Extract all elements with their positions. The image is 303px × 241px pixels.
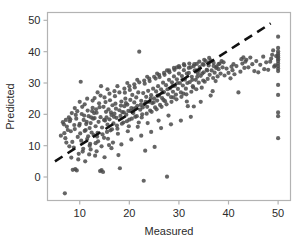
data-point — [68, 117, 72, 121]
data-point — [73, 127, 77, 131]
data-point — [76, 157, 80, 161]
data-point — [266, 68, 270, 72]
data-point — [239, 57, 243, 61]
data-point — [195, 75, 199, 79]
data-point — [100, 132, 104, 136]
x-tick-label: 50 — [272, 207, 284, 219]
data-point — [276, 35, 280, 39]
data-point — [144, 95, 148, 99]
data-point — [161, 98, 165, 102]
data-point — [169, 122, 173, 126]
x-tick-label: 10 — [74, 207, 86, 219]
data-point — [70, 140, 74, 144]
data-point — [165, 68, 169, 72]
data-point — [206, 77, 210, 81]
data-point — [117, 90, 121, 94]
data-point — [224, 66, 228, 70]
data-point — [156, 84, 160, 88]
data-point — [156, 119, 160, 123]
data-point — [111, 140, 115, 144]
y-tick-label: 0 — [34, 171, 40, 183]
data-point — [95, 90, 99, 94]
data-point — [72, 123, 76, 127]
data-point — [149, 130, 153, 134]
data-point — [106, 137, 110, 141]
data-point — [216, 62, 220, 66]
data-point — [276, 83, 280, 87]
data-point — [73, 106, 77, 110]
data-point — [81, 147, 85, 151]
data-point — [189, 115, 193, 119]
data-point — [175, 65, 179, 69]
data-point — [108, 98, 112, 102]
data-point — [114, 107, 118, 111]
data-point — [276, 110, 280, 114]
data-point — [66, 128, 70, 132]
data-point — [208, 73, 212, 77]
data-point — [268, 60, 272, 64]
data-point — [232, 72, 236, 76]
data-point — [246, 65, 250, 69]
data-point — [88, 144, 92, 148]
data-point — [273, 63, 277, 67]
data-point — [228, 76, 232, 80]
data-point — [119, 99, 123, 103]
data-point — [229, 65, 233, 69]
data-point — [150, 110, 154, 114]
data-points — [59, 35, 280, 196]
data-point — [242, 66, 246, 70]
data-point — [76, 135, 80, 139]
data-point — [91, 117, 95, 121]
data-point — [176, 87, 180, 91]
data-point — [197, 60, 201, 64]
data-point — [262, 67, 266, 71]
y-axis-title: Predicted — [4, 83, 16, 129]
x-tick-label: 30 — [173, 207, 185, 219]
data-point — [89, 147, 93, 151]
data-point — [112, 89, 116, 93]
data-point — [102, 118, 106, 122]
data-point — [276, 114, 280, 118]
data-point — [113, 94, 117, 98]
data-point — [63, 191, 67, 195]
data-point — [212, 64, 216, 68]
data-point — [159, 105, 163, 109]
data-point — [165, 175, 169, 179]
data-point — [78, 131, 82, 135]
chart-canvas: 010203040501020304050MeasuredPredicted — [0, 0, 303, 241]
data-point — [98, 115, 102, 119]
data-point — [169, 100, 173, 104]
data-point — [141, 105, 145, 109]
data-point — [125, 81, 129, 85]
data-point — [187, 66, 191, 70]
data-point — [99, 144, 103, 148]
data-point — [202, 63, 206, 67]
data-point — [99, 84, 103, 88]
data-point — [264, 60, 268, 64]
data-point — [180, 74, 184, 78]
data-point — [113, 102, 117, 106]
data-point — [137, 50, 141, 54]
data-point — [103, 100, 107, 104]
data-point — [270, 53, 274, 57]
data-point — [118, 166, 122, 170]
data-point — [186, 104, 190, 108]
data-point — [187, 61, 191, 65]
data-point — [122, 87, 126, 91]
data-point — [181, 83, 185, 87]
data-point — [184, 87, 188, 91]
data-point — [211, 76, 215, 80]
data-point — [96, 120, 100, 124]
data-point — [85, 120, 89, 124]
data-point — [109, 146, 113, 150]
data-point — [261, 55, 265, 59]
data-point — [107, 92, 111, 96]
data-point — [205, 68, 209, 72]
data-point — [112, 115, 116, 119]
data-point — [276, 69, 280, 73]
data-point — [97, 101, 101, 105]
data-point — [88, 126, 92, 130]
data-point — [105, 130, 109, 134]
data-point — [128, 98, 132, 102]
data-point — [110, 127, 114, 131]
